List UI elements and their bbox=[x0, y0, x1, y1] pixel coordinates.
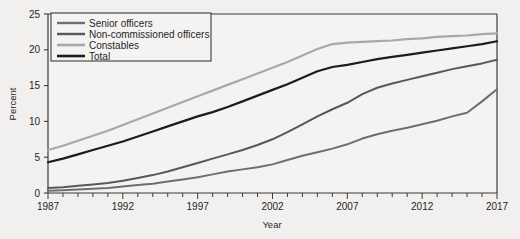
y-tick-label: 0 bbox=[34, 188, 40, 199]
y-tick-label: 25 bbox=[29, 9, 41, 20]
legend-label: Non-commissioned officers bbox=[89, 29, 209, 40]
chart-figure: 0510152025 1987199219972002200720122017 … bbox=[0, 0, 520, 239]
chart-legend: Senior officersNon-commissioned officers… bbox=[51, 13, 211, 62]
legend-label: Senior officers bbox=[89, 18, 153, 29]
legend-label: Total bbox=[89, 51, 110, 62]
x-tick-label: 1992 bbox=[112, 201, 135, 212]
x-axis-title: Year bbox=[262, 219, 281, 230]
legend-label: Constables bbox=[89, 40, 139, 51]
x-tick-label: 2007 bbox=[336, 201, 359, 212]
line-chart: 0510152025 1987199219972002200720122017 … bbox=[0, 0, 520, 239]
y-tick-label: 20 bbox=[29, 44, 41, 55]
x-tick-label: 2017 bbox=[486, 201, 509, 212]
x-tick-label: 1987 bbox=[37, 201, 60, 212]
x-tick-label: 1997 bbox=[187, 201, 210, 212]
y-tick-label: 5 bbox=[34, 152, 40, 163]
x-tick-label: 2012 bbox=[411, 201, 434, 212]
y-axis-title: Percent bbox=[7, 87, 18, 120]
y-tick-label: 15 bbox=[29, 80, 41, 91]
x-tick-label: 2002 bbox=[261, 201, 284, 212]
y-tick-label: 10 bbox=[29, 116, 41, 127]
